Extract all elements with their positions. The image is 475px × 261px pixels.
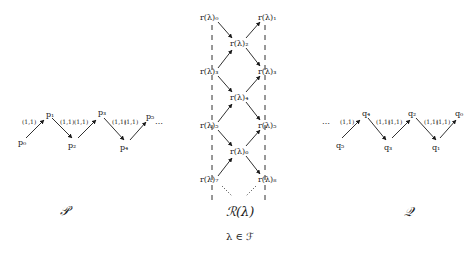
diagram-canvas: p₀ p₁ p₂ p₃ p₄ p₅ (1,1) (1,1) (1,1) (1,1… [0, 0, 475, 261]
node-p4: p₄ [120, 143, 128, 152]
edge-label: (1,1) [22, 118, 36, 125]
node-q3: q₃ [384, 143, 392, 152]
node-p5: p₅ [146, 112, 154, 121]
edge-label: (1,1) [74, 118, 88, 125]
node-r8: r(λ)₈ [258, 175, 276, 184]
caption-p: 𝒫 [60, 203, 73, 218]
node-q4: q₄ [362, 109, 370, 118]
diagram-r [212, 22, 265, 200]
ellipsis: ⋯ [322, 119, 330, 128]
caption-r: ℛ(λ) [226, 204, 254, 219]
node-p2: p₂ [68, 141, 76, 150]
node-q0: q₀ [455, 109, 463, 118]
node-r3-left: r(λ)₃ [200, 67, 218, 76]
edge-label: (1,1) [60, 118, 74, 125]
node-r5-left: r(λ)₅ [200, 121, 218, 130]
node-q5: q₅ [336, 141, 344, 150]
node-r1: r(λ)₁ [258, 13, 276, 22]
node-r6: r(λ)₆ [230, 147, 248, 156]
node-p1: p₁ [46, 110, 54, 119]
node-q1: q₁ [432, 143, 440, 152]
node-r5-right: r(λ)₅ [258, 121, 276, 130]
edge-label: (1,1) [340, 118, 354, 125]
node-r7: r(λ)₇ [200, 175, 218, 184]
node-r0: r(λ)₀ [200, 13, 218, 22]
node-r4: r(λ)₄ [230, 93, 248, 102]
node-r2: r(λ)₂ [230, 39, 248, 48]
edge-label: (1,1) [388, 118, 402, 125]
caption-q: 𝒬 [404, 204, 416, 219]
node-p0: p₀ [18, 138, 26, 147]
edge-label: (1,1) [124, 118, 138, 125]
subcaption-r: λ ∈ ℱ [226, 231, 254, 242]
node-p3: p₃ [98, 108, 106, 117]
node-q2: q₂ [408, 109, 416, 118]
node-r3-right: r(λ)₃ [258, 67, 276, 76]
edge-label: (1,1) [436, 118, 450, 125]
ellipsis: ⋯ [155, 119, 163, 128]
